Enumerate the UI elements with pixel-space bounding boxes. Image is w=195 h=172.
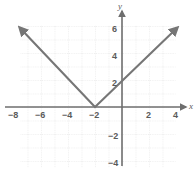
x-tick-label-4: 4 (173, 111, 178, 120)
x-tick-label--4: −4 (62, 111, 72, 120)
x-tick-label--8: −8 (8, 111, 18, 120)
y-tick-label-4: 4 (112, 52, 117, 61)
coordinate-plane (0, 0, 195, 172)
x-tick-label--2: −2 (89, 111, 99, 120)
grid-background (21, 26, 176, 168)
y-tick-label-2: 2 (112, 79, 117, 88)
x-tick-label--6: −6 (35, 111, 45, 120)
y-axis-label: y (118, 2, 122, 11)
y-tick-label--4: −4 (108, 159, 118, 168)
graph-figure: −8 −6 −4 −2 2 4 6 4 2 −2 −4 y x (0, 0, 195, 172)
y-tick-label-6: 6 (112, 25, 117, 34)
x-axis-label: x (189, 102, 193, 111)
x-tick-label-2: 2 (146, 111, 151, 120)
y-tick-label--2: −2 (108, 132, 118, 141)
